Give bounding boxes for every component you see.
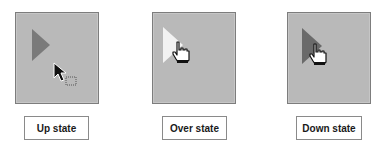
up-state-button-preview — [15, 12, 99, 104]
down-state-label: Down state — [296, 116, 362, 140]
play-triangle-icon — [32, 29, 50, 61]
up-state-label: Up state — [24, 116, 89, 140]
over-state-button-preview — [152, 12, 236, 104]
hand-cursor-icon — [171, 41, 193, 65]
over-state-label: Over state — [162, 116, 227, 140]
down-state-button-preview — [287, 12, 371, 104]
hand-cursor-icon — [308, 43, 330, 67]
arrow-cursor-icon — [52, 61, 82, 91]
